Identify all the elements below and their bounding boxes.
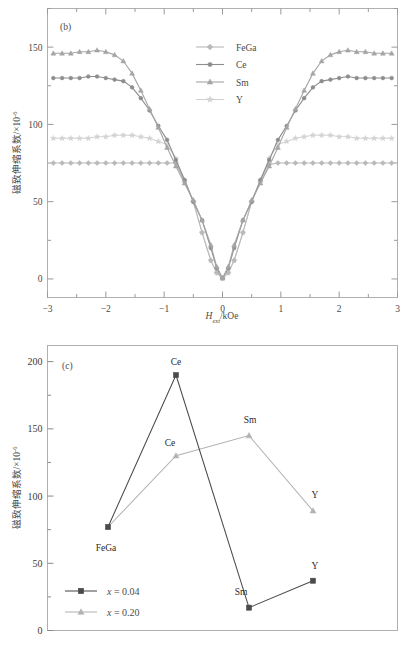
data-marker-circle bbox=[121, 79, 125, 83]
data-marker-star bbox=[77, 135, 83, 140]
panel-c-plot-frame bbox=[48, 346, 398, 631]
data-marker-triangle bbox=[95, 48, 100, 52]
panel-b-y-tick-label: 150 bbox=[28, 43, 43, 53]
data-marker-star bbox=[301, 134, 307, 139]
data-marker-star bbox=[336, 134, 342, 139]
data-marker-diamond bbox=[77, 160, 82, 165]
panel-b-x-tick-label: 3 bbox=[395, 304, 400, 314]
data-marker-circle bbox=[60, 76, 64, 80]
data-marker-circle bbox=[69, 76, 73, 80]
series-line bbox=[53, 135, 391, 278]
panel-b-legend-label-Sm: Sm bbox=[236, 78, 249, 88]
data-marker-diamond bbox=[165, 160, 170, 165]
panel-c-point-label-fega: FeGa bbox=[96, 543, 117, 553]
series-Ce bbox=[51, 75, 393, 280]
data-marker-star bbox=[354, 135, 360, 140]
data-marker-diamond bbox=[389, 160, 394, 165]
data-marker-diamond bbox=[68, 160, 73, 165]
data-marker-triangle bbox=[121, 58, 126, 62]
panel-c-comparison-chart: 050100150200 FeGaCeSmYCeSmY (c) x = 0.04… bbox=[0, 325, 408, 651]
panel-c-point-label-ce-light: Ce bbox=[165, 438, 176, 448]
panel-b-x-tick-label: −2 bbox=[101, 304, 111, 314]
panel-c-legend-label-0: x = 0.04 bbox=[106, 586, 140, 597]
data-marker-diamond bbox=[310, 160, 315, 165]
panel-b-svg: 050100150 −3−2−10123 (b) FeGaCeSmY 磁致伸缩系… bbox=[0, 0, 408, 325]
panel-c-svg: 050100150200 FeGaCeSmYCeSmY (c) x = 0.04… bbox=[0, 325, 408, 651]
data-marker-circle bbox=[364, 76, 368, 80]
data-marker-diamond bbox=[354, 160, 359, 165]
data-marker-triangle bbox=[214, 264, 219, 268]
panel-b-y-axis-title: 磁致伸缩系数/×10-6 bbox=[11, 111, 23, 195]
series-line bbox=[53, 163, 391, 278]
panel-b-y-axis-ticks: 050100150 bbox=[28, 9, 397, 285]
data-marker-circle bbox=[329, 78, 333, 82]
data-marker-diamond bbox=[372, 160, 377, 165]
data-marker-diamond bbox=[293, 160, 298, 165]
panel-b-data-series bbox=[50, 48, 394, 281]
data-marker-diamond bbox=[95, 160, 100, 165]
panel-b-x-tick-label: −3 bbox=[42, 304, 52, 314]
panel-c-point-labels: FeGaCeSmYCeSmY bbox=[96, 357, 319, 597]
data-marker-star bbox=[59, 135, 65, 140]
data-marker-circle bbox=[139, 96, 143, 100]
panel-b-ylabel-main: 磁致伸缩系数/×10 bbox=[11, 117, 22, 195]
data-marker-circle bbox=[174, 158, 178, 162]
data-marker-diamond bbox=[156, 160, 161, 165]
panel-b-magnetostriction-curves: 050100150 −3−2−10123 (b) FeGaCeSmY 磁致伸缩系… bbox=[0, 0, 408, 325]
panel-c-y-tick-label: 50 bbox=[33, 558, 43, 569]
data-marker-diamond bbox=[60, 160, 65, 165]
data-marker-circle bbox=[113, 78, 117, 82]
panel-b-legend: FeGaCeSmY bbox=[196, 43, 257, 106]
data-marker-star bbox=[207, 96, 213, 102]
data-marker-star bbox=[380, 135, 386, 140]
data-marker-circle bbox=[104, 76, 108, 80]
data-marker-circle bbox=[78, 76, 82, 80]
data-marker-star bbox=[138, 134, 144, 139]
panel-b-legend-label-Ce: Ce bbox=[236, 60, 247, 70]
data-marker-square bbox=[173, 372, 178, 377]
panel-b-y-tick-label: 50 bbox=[33, 197, 43, 207]
panel-c-ylabel-main: 磁致伸缩系数/×10 bbox=[11, 452, 22, 530]
data-marker-circle bbox=[381, 76, 385, 80]
data-marker-circle bbox=[372, 76, 376, 80]
panel-c-legend: x = 0.04x = 0.20 bbox=[65, 586, 140, 618]
data-marker-circle bbox=[267, 158, 271, 162]
panel-b-y-tick-label: 0 bbox=[38, 274, 43, 284]
data-marker-diamond bbox=[86, 160, 91, 165]
data-marker-circle bbox=[165, 138, 169, 142]
data-marker-star bbox=[293, 135, 299, 140]
data-marker-diamond bbox=[103, 160, 108, 165]
series-line bbox=[53, 77, 391, 279]
data-marker-circle bbox=[302, 96, 306, 100]
data-marker-diamond bbox=[51, 160, 56, 165]
series-line bbox=[108, 375, 313, 608]
panel-c-point-label-y-light: Y bbox=[312, 490, 319, 500]
series-line bbox=[108, 436, 313, 527]
panel-c-y-tick-label: 200 bbox=[28, 356, 43, 367]
data-marker-diamond bbox=[138, 160, 143, 165]
data-marker-diamond bbox=[207, 44, 213, 50]
data-marker-circle bbox=[95, 75, 99, 79]
panel-c-y-tick-label: 0 bbox=[38, 625, 43, 636]
data-marker-diamond bbox=[337, 160, 342, 165]
data-marker-diamond bbox=[130, 160, 135, 165]
panel-b-plot-frame bbox=[48, 9, 398, 298]
data-marker-circle bbox=[208, 62, 212, 66]
data-marker-circle bbox=[130, 85, 134, 89]
panel-b-tag: (b) bbox=[60, 22, 71, 33]
data-marker-circle bbox=[311, 85, 315, 89]
data-marker-triangle bbox=[302, 88, 307, 92]
data-marker-star bbox=[319, 132, 325, 137]
data-marker-diamond bbox=[302, 160, 307, 165]
panel-c-y-axis-title: 磁致伸缩系数/×10-6 bbox=[11, 446, 23, 530]
svg-text:磁致伸缩系数/×10-6: 磁致伸缩系数/×10-6 bbox=[11, 446, 23, 530]
data-marker-star bbox=[94, 134, 100, 139]
data-marker-circle bbox=[51, 76, 55, 80]
panel-c-legend-label-1: x = 0.20 bbox=[106, 607, 140, 618]
data-marker-star bbox=[129, 132, 135, 137]
data-marker-star bbox=[147, 135, 153, 140]
data-marker-star bbox=[112, 132, 118, 137]
series-Y bbox=[50, 132, 394, 280]
data-marker-square bbox=[246, 605, 251, 610]
data-marker-diamond bbox=[121, 160, 126, 165]
